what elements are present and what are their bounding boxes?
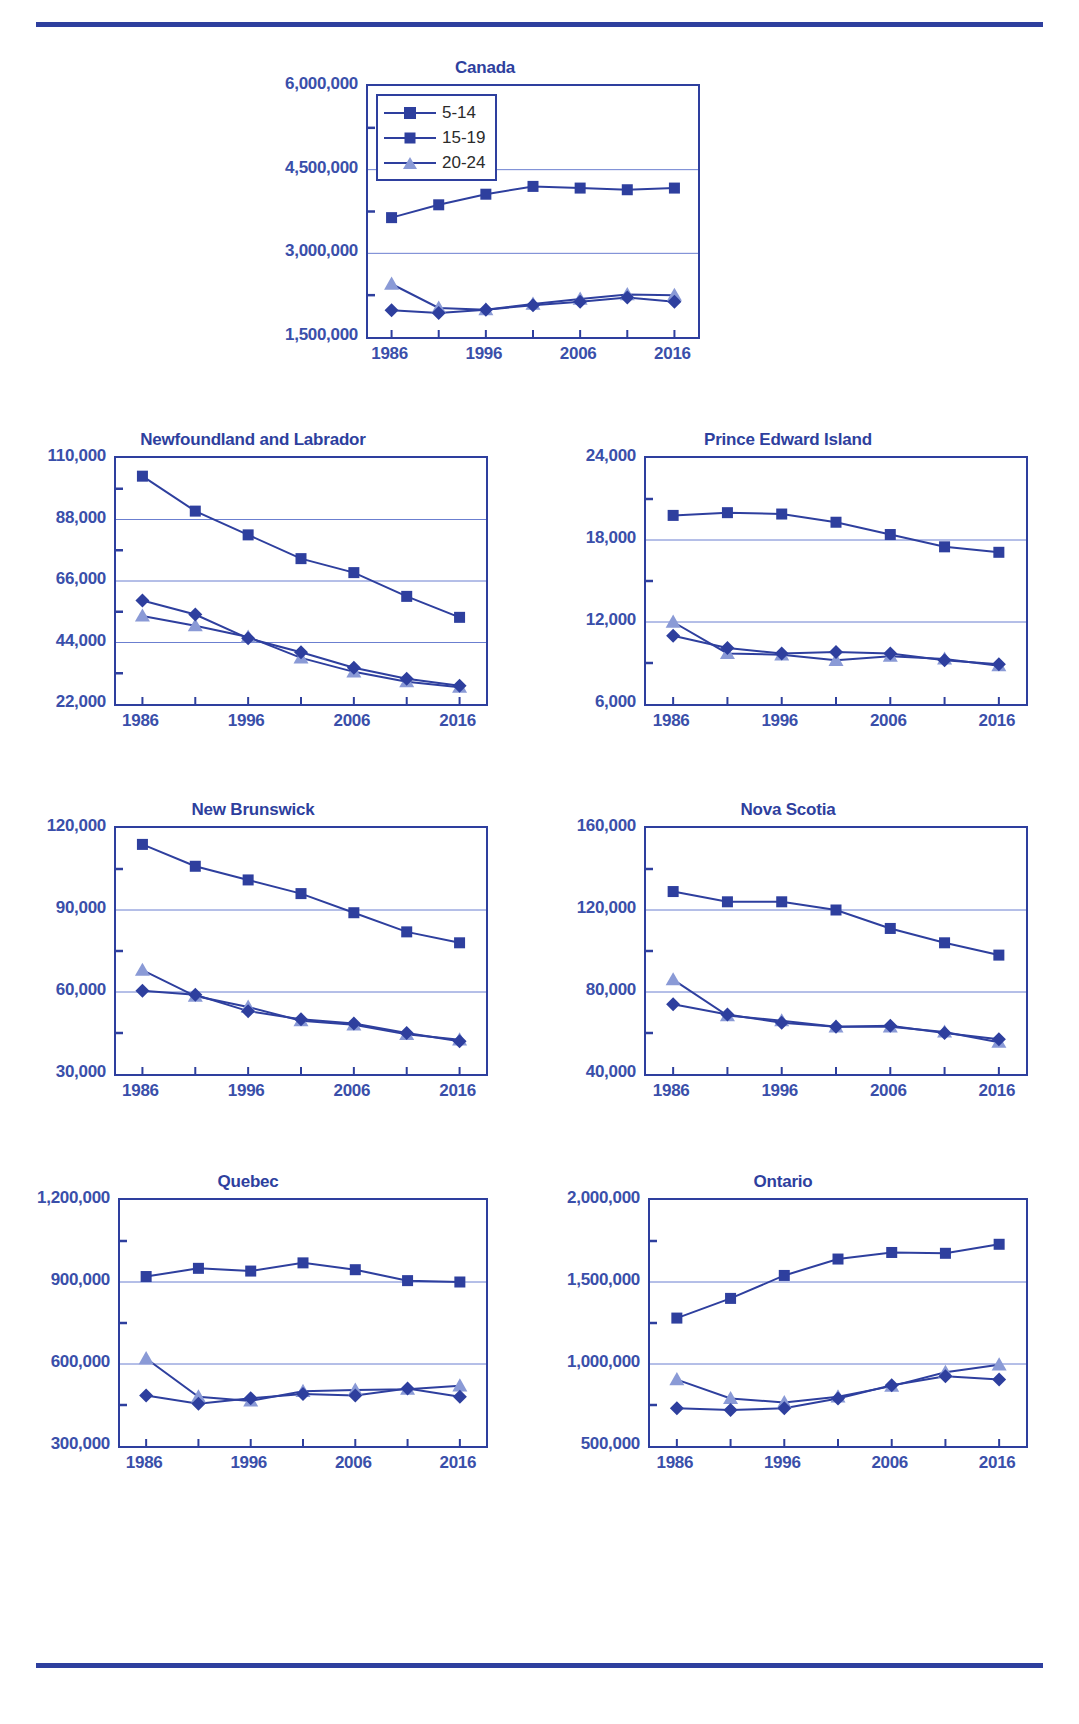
x-tick-label: 1986 xyxy=(122,1081,159,1101)
y-tick-label: 40,000 xyxy=(586,1062,636,1082)
y-tick-label: 1,000,000 xyxy=(567,1352,640,1372)
plot-area-ontario xyxy=(648,1198,1028,1448)
plot-area-new-brunswick xyxy=(114,826,488,1076)
y-axis-labels-canada: 1,500,0003,000,0004,500,0006,000,000 xyxy=(270,84,366,335)
x-tick-label: 1996 xyxy=(466,344,503,364)
x-tick-label: 2006 xyxy=(871,1453,908,1473)
x-tick-label: 2016 xyxy=(439,711,476,731)
y-tick-label: 1,500,000 xyxy=(285,325,358,345)
legend-marker-square-icon xyxy=(384,106,436,120)
x-axis-labels-nova-scotia: 1986199620062016 xyxy=(644,1076,1028,1106)
y-axis-labels-nova-scotia: 40,00080,000120,000160,000 xyxy=(548,826,644,1072)
y-axis-labels-prince-edward-island: 6,00012,00018,00024,000 xyxy=(548,456,644,702)
plot-area-quebec xyxy=(118,1198,488,1448)
y-tick-label: 3,000,000 xyxy=(285,241,358,261)
x-tick-label: 2006 xyxy=(560,344,597,364)
panel-prince-edward-island: Prince Edward Island 6,00012,00018,00024… xyxy=(548,430,1028,736)
panel-nova-scotia: Nova Scotia 40,00080,000120,000160,000 1… xyxy=(548,800,1028,1106)
x-tick-label: 1996 xyxy=(761,1081,798,1101)
x-tick-label: 2016 xyxy=(440,1453,477,1473)
plot-area-nova-scotia xyxy=(644,826,1028,1076)
y-tick-label: 160,000 xyxy=(577,816,636,836)
y-tick-label: 120,000 xyxy=(577,898,636,918)
chart-page: Canada 1,500,0003,000,0004,500,0006,000,… xyxy=(0,0,1079,1724)
plot-area-prince-edward-island xyxy=(644,456,1028,706)
y-tick-label: 44,000 xyxy=(56,631,106,651)
y-tick-label: 88,000 xyxy=(56,508,106,528)
y-tick-label: 30,000 xyxy=(56,1062,106,1082)
x-axis-labels-prince-edward-island: 1986199620062016 xyxy=(644,706,1028,736)
x-tick-label: 1986 xyxy=(122,711,159,731)
chart-svg-prince-edward-island xyxy=(646,458,1026,704)
x-tick-label: 2006 xyxy=(335,1453,372,1473)
y-tick-label: 22,000 xyxy=(56,692,106,712)
y-tick-label: 80,000 xyxy=(586,980,636,1000)
x-tick-label: 1986 xyxy=(126,1453,163,1473)
x-axis-labels-new-brunswick: 1986199620062016 xyxy=(114,1076,488,1106)
chart-svg-ontario xyxy=(650,1200,1026,1446)
plot-area-newfoundland-and-labrador xyxy=(114,456,488,706)
x-tick-label: 2016 xyxy=(439,1081,476,1101)
x-tick-label: 2006 xyxy=(334,711,371,731)
x-tick-label: 1986 xyxy=(657,1453,694,1473)
x-tick-label: 2016 xyxy=(979,711,1016,731)
x-tick-label: 1996 xyxy=(230,1453,267,1473)
y-tick-label: 18,000 xyxy=(586,528,636,548)
x-tick-label: 1996 xyxy=(228,711,265,731)
y-tick-label: 66,000 xyxy=(56,569,106,589)
x-tick-label: 1996 xyxy=(764,1453,801,1473)
x-tick-label: 1986 xyxy=(371,344,408,364)
y-tick-label: 900,000 xyxy=(51,1270,110,1290)
legend-item: 20-24 xyxy=(384,150,485,175)
y-tick-label: 12,000 xyxy=(586,610,636,630)
x-tick-label: 1996 xyxy=(228,1081,265,1101)
x-axis-labels-newfoundland-and-labrador: 1986199620062016 xyxy=(114,706,488,736)
legend-item: 15-19 xyxy=(384,125,485,150)
y-axis-labels-ontario: 500,0001,000,0001,500,0002,000,000 xyxy=(538,1198,648,1444)
panel-newfoundland-and-labrador: Newfoundland and Labrador 22,00044,00066… xyxy=(18,430,488,736)
chart-svg-nova-scotia xyxy=(646,828,1026,1074)
x-tick-label: 2016 xyxy=(979,1081,1016,1101)
y-axis-labels-new-brunswick: 30,00060,00090,000120,000 xyxy=(18,826,114,1072)
y-tick-label: 90,000 xyxy=(56,898,106,918)
panel-new-brunswick: New Brunswick 30,00060,00090,000120,000 … xyxy=(18,800,488,1106)
legend-label: 20-24 xyxy=(442,153,485,173)
x-axis-labels-ontario: 1986199620062016 xyxy=(648,1448,1028,1478)
y-tick-label: 300,000 xyxy=(51,1434,110,1454)
chart-svg-quebec xyxy=(120,1200,486,1446)
x-tick-label: 2016 xyxy=(979,1453,1016,1473)
x-tick-label: 2006 xyxy=(870,1081,907,1101)
chart-svg-newfoundland-and-labrador xyxy=(116,458,486,704)
x-axis-labels-canada: 1986199620062016 xyxy=(366,339,700,369)
y-tick-label: 60,000 xyxy=(56,980,106,1000)
x-tick-label: 2016 xyxy=(654,344,691,364)
plot-area-canada: 5-14 15-19 20-24 xyxy=(366,84,700,339)
y-axis-labels-quebec: 300,000600,000900,0001,200,000 xyxy=(8,1198,118,1444)
legend-label: 5-14 xyxy=(442,103,476,123)
legend-label: 15-19 xyxy=(442,128,485,148)
y-axis-labels-newfoundland-and-labrador: 22,00044,00066,00088,000110,000 xyxy=(18,456,114,702)
legend-item: 5-14 xyxy=(384,100,485,125)
y-tick-label: 6,000,000 xyxy=(285,74,358,94)
x-tick-label: 1996 xyxy=(761,711,798,731)
y-tick-label: 2,000,000 xyxy=(567,1188,640,1208)
panel-quebec: Quebec 300,000600,000900,0001,200,000 19… xyxy=(8,1172,488,1478)
y-tick-label: 6,000 xyxy=(595,692,636,712)
x-tick-label: 2006 xyxy=(334,1081,371,1101)
y-tick-label: 1,500,000 xyxy=(567,1270,640,1290)
y-tick-label: 4,500,000 xyxy=(285,158,358,178)
y-tick-label: 600,000 xyxy=(51,1352,110,1372)
y-tick-label: 120,000 xyxy=(47,816,106,836)
panel-canada: Canada 1,500,0003,000,0004,500,0006,000,… xyxy=(270,58,700,369)
y-tick-label: 1,200,000 xyxy=(37,1188,110,1208)
bottom-divider-rule xyxy=(36,1663,1043,1668)
legend-marker-diamond-icon xyxy=(384,131,436,145)
y-tick-label: 110,000 xyxy=(48,446,106,466)
x-tick-label: 2006 xyxy=(870,711,907,731)
x-tick-label: 1986 xyxy=(653,1081,690,1101)
top-divider-rule xyxy=(36,22,1043,27)
x-axis-labels-quebec: 1986199620062016 xyxy=(118,1448,488,1478)
legend-marker-triangle-icon xyxy=(384,156,436,170)
y-tick-label: 500,000 xyxy=(581,1434,640,1454)
y-tick-label: 24,000 xyxy=(586,446,636,466)
